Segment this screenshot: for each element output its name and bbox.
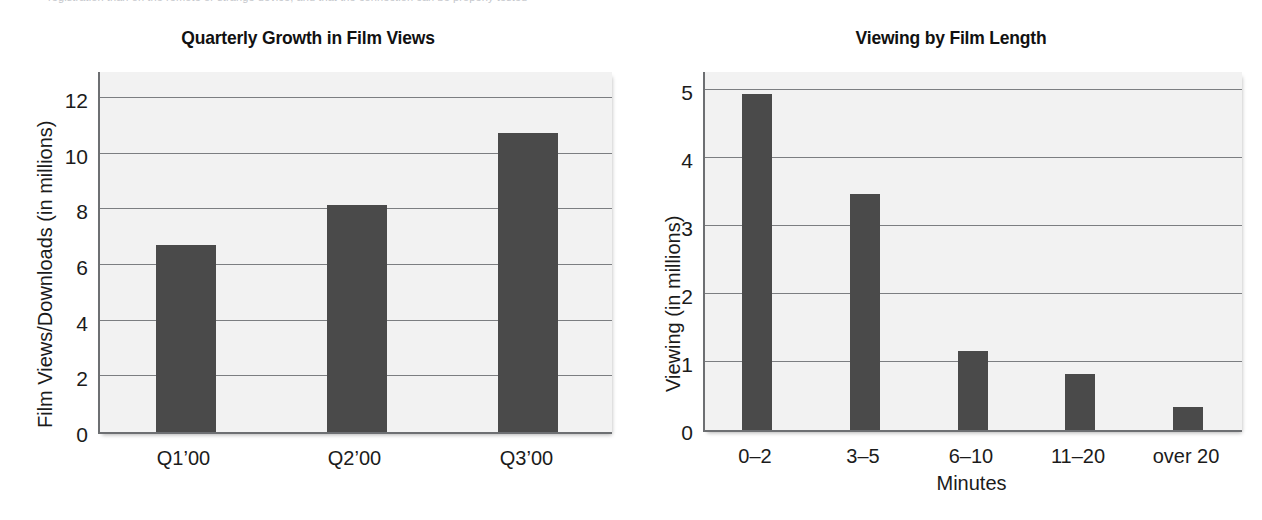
bar [1065, 374, 1095, 430]
y-tick-label: 10 [52, 146, 88, 167]
x-tick-label: 11–20 [1024, 446, 1132, 466]
y-tick-label: 2 [52, 368, 88, 389]
bar [958, 351, 988, 430]
x-tick-label: Q3’00 [441, 448, 612, 468]
y-tick-label: 5 [657, 82, 693, 103]
chart-viewing-by-film-length: Viewing by Film Length Viewing (in milli… [640, 0, 1262, 520]
plot-area [98, 72, 612, 434]
y-tick-label: 8 [52, 201, 88, 222]
y-tick-label: 0 [657, 422, 693, 443]
bar [156, 245, 216, 432]
bar [327, 205, 387, 432]
chart-title: Quarterly Growth in Film Views [14, 27, 603, 49]
figure-page: registration than on the remote or stran… [0, 0, 1262, 520]
gridline [100, 97, 612, 98]
x-tick-label: 6–10 [917, 446, 1025, 466]
x-tick-label: 3–5 [809, 446, 917, 466]
x-tick-label: 0–2 [701, 446, 809, 466]
gridline [705, 89, 1242, 90]
bar [498, 133, 558, 432]
gridline [705, 157, 1242, 158]
chart-quarterly-growth: Quarterly Growth in Film Views Film View… [0, 0, 640, 520]
y-tick-label: 1 [657, 354, 693, 375]
plot-area [703, 72, 1242, 432]
y-tick-label: 2 [657, 286, 693, 307]
y-tick-label: 3 [657, 218, 693, 239]
y-tick-label: 0 [52, 424, 88, 445]
x-tick-label: Q2’00 [269, 448, 440, 468]
x-tick-label: over 20 [1132, 446, 1240, 466]
y-tick-label: 4 [657, 150, 693, 171]
y-tick-label: 6 [52, 257, 88, 278]
x-tick-label: Q1’00 [98, 448, 269, 468]
bar [1173, 407, 1203, 430]
y-tick-label: 4 [52, 313, 88, 334]
bar [742, 94, 772, 430]
gridline [705, 225, 1242, 226]
gridline [705, 293, 1242, 294]
y-tick-label: 12 [52, 90, 88, 111]
x-axis-label: Minutes [703, 472, 1240, 495]
bar [850, 194, 880, 430]
chart-title: Viewing by Film Length [665, 27, 1237, 49]
